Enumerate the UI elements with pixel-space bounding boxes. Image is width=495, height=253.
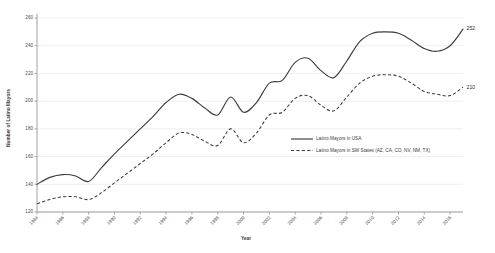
plot-series <box>37 29 463 204</box>
y-tick-label: 120 <box>25 209 33 214</box>
x-tick-label: 1992 <box>132 215 143 226</box>
x-tick-label: 2006 <box>313 215 324 226</box>
legend: Latino Mayors in USALatino Mayors in SW … <box>291 136 431 153</box>
endpoint-labels: 252210 <box>467 25 476 89</box>
x-tick-label: 1996 <box>183 215 194 226</box>
y-tick-label: 240 <box>25 43 33 48</box>
endpoint-value-label: 210 <box>467 84 476 90</box>
x-tick-label: 2010 <box>364 215 375 226</box>
x-tick-label: 2008 <box>338 215 349 226</box>
y-tick-label: 160 <box>25 154 33 159</box>
y-axis-title: Number of Latino Mayors <box>6 89 11 147</box>
y-tick-label: 260 <box>25 15 33 20</box>
latino-mayors-line-chart: 120140160180200220240260 198419861988199… <box>0 0 495 253</box>
y-tick-label: 180 <box>25 126 33 131</box>
endpoint-value-label: 252 <box>467 25 476 31</box>
y-tick-label: 140 <box>25 182 33 187</box>
x-tick-label: 1994 <box>158 215 169 226</box>
series-line-1 <box>37 29 463 184</box>
x-tick-label: 2014 <box>416 215 427 226</box>
y-tick-label: 220 <box>25 71 33 76</box>
x-tick-label: 2000 <box>235 215 246 226</box>
x-axis-title: Year <box>241 236 251 241</box>
x-tick-label: 1998 <box>209 215 220 226</box>
x-tick-label: 2002 <box>261 215 272 226</box>
x-tick-label: 2012 <box>390 215 401 226</box>
y-tick-label: 200 <box>25 98 33 103</box>
y-axis-tick-labels: 120140160180200220240260 <box>25 15 37 214</box>
chart-container: 120140160180200220240260 198419861988199… <box>0 0 495 253</box>
x-tick-label: 2016 <box>442 215 453 226</box>
legend-label-1: Latino Mayors in USA <box>316 136 362 141</box>
x-tick-label: 2004 <box>287 215 298 226</box>
x-tick-label: 1984 <box>29 215 40 226</box>
x-tick-label: 1986 <box>54 215 65 226</box>
x-tick-label: 1990 <box>106 215 117 226</box>
x-tick-label: 1988 <box>80 215 91 226</box>
x-axis-tick-labels: 1984198619881990199219941996199820002002… <box>29 212 453 226</box>
grid-lines <box>37 18 463 212</box>
legend-label-2: Latino Mayors in SW States (AZ, CA, CO, … <box>316 148 431 153</box>
